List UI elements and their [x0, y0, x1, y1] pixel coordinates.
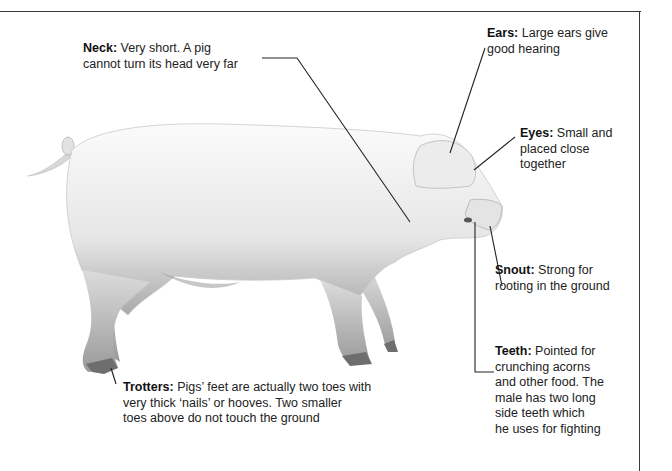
ears-term: Ears: [487, 26, 518, 40]
eyes-line-3: together [520, 157, 566, 171]
label-ears: Ears: Large ears give good hearing [487, 26, 608, 57]
teeth-line-3: and other food. The [495, 375, 604, 389]
ears-leader [450, 48, 485, 153]
trotters-leader [111, 368, 116, 384]
trotters-term: Trotters: [123, 380, 174, 394]
teeth-leader [475, 222, 494, 372]
eyes-leader [474, 137, 515, 170]
trotters-line-2: very thick ‘nails’ or hooves. Two smalle… [123, 396, 342, 410]
neck-term: Neck: [83, 41, 117, 55]
trotters-line-3: toes above do not touch the ground [123, 411, 320, 425]
eyes-line-2: placed close [520, 142, 590, 156]
neck-line-1: Very short. A pig [121, 41, 211, 55]
label-eyes: Eyes: Small and placed close together [520, 126, 612, 173]
teeth-line-6: he uses for fighting [495, 422, 601, 436]
neck-line-2: cannot turn its head very far [83, 57, 238, 71]
ears-line-2: good hearing [487, 42, 560, 56]
teeth-line-1: Pointed for [535, 344, 595, 358]
eyes-term: Eyes: [520, 126, 553, 140]
snout-term: Snout: [495, 263, 535, 277]
teeth-term: Teeth: [495, 344, 532, 358]
label-teeth: Teeth: Pointed for crunching acorns and … [495, 344, 604, 437]
label-trotters: Trotters: Pigs’ feet are actually two to… [123, 380, 371, 427]
ears-line-1: Large ears give [522, 26, 608, 40]
snout-line-1: Strong for [538, 263, 593, 277]
label-snout: Snout: Strong for rooting in the ground [495, 263, 610, 294]
teeth-line-2: crunching acorns [495, 360, 590, 374]
label-neck: Neck: Very short. A pig cannot turn its … [83, 41, 238, 72]
trotters-line-1: Pigs’ feet are actually two toes with [177, 380, 371, 394]
teeth-line-4: male has two long [495, 391, 596, 405]
teeth-line-5: side teeth which [495, 406, 585, 420]
eyes-line-1: Small and [557, 126, 613, 140]
snout-line-2: rooting in the ground [495, 279, 610, 293]
ear [413, 141, 475, 189]
